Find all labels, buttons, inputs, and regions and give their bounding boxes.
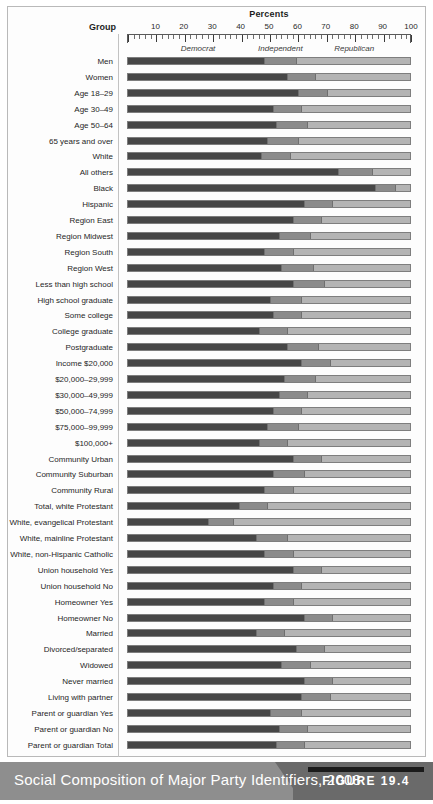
minor-tick-16 (173, 35, 174, 39)
bar-segment-independent (293, 281, 324, 287)
segment-divider-1 (256, 630, 257, 636)
row-label: White, non-Hispanic Catholic (0, 550, 113, 559)
bar-segment-republican (332, 201, 411, 207)
chart-row: Region East (0, 215, 419, 229)
segment-divider-2 (307, 726, 308, 732)
bar-segment-democrat (128, 201, 304, 207)
chart-row: Homeowner No (0, 613, 419, 627)
minor-tick-84 (367, 35, 368, 39)
segment-divider-1 (293, 281, 294, 287)
figure-number-rule (308, 767, 424, 772)
bar-segment-democrat (128, 265, 281, 271)
bar-segment-democrat (128, 440, 259, 446)
bar-segment-republican (298, 138, 411, 144)
minor-tick-22 (190, 35, 191, 39)
chart-row: $50,000–74,999 (0, 406, 419, 420)
row-label: Divorced/separated (0, 645, 113, 654)
bar-segment-democrat (128, 678, 304, 684)
row-label: Less than high school (0, 280, 113, 289)
row-label: Income $20,000 (0, 359, 113, 368)
stacked-bar (127, 741, 411, 749)
chart-row: Community Urban (0, 454, 419, 468)
minor-tick-88 (378, 35, 379, 39)
row-label: Women (0, 73, 113, 82)
stacked-bar (127, 216, 411, 224)
bar-segment-republican (293, 599, 411, 605)
row-label: Men (0, 57, 113, 66)
bar-segment-republican (315, 74, 411, 80)
segment-divider-1 (270, 710, 271, 716)
row-label: Widowed (0, 661, 113, 670)
major-tick-60 (298, 35, 299, 42)
segment-divider-1 (264, 551, 265, 557)
major-tick-10 (156, 35, 157, 42)
chart-row: Women (0, 72, 419, 86)
bar-segment-republican (293, 249, 411, 255)
minor-tick-56 (287, 35, 288, 39)
segment-divider-2 (324, 646, 325, 652)
major-tick-80 (355, 35, 356, 42)
bar-segment-republican (372, 169, 411, 175)
segment-legend: DemocratIndependentRepublican (127, 44, 411, 56)
segment-divider-2 (298, 424, 299, 430)
row-label: Never married (0, 677, 113, 686)
bar-segment-independent (264, 58, 295, 64)
bar-segment-independent (293, 567, 321, 573)
segment-divider-1 (276, 742, 277, 748)
bar-segment-republican (332, 615, 411, 621)
minor-tick-64 (310, 35, 311, 39)
chart-row: White, mainline Protestant (0, 533, 419, 547)
bar-segment-independent (304, 615, 332, 621)
bar-segment-democrat (128, 599, 264, 605)
bar-segment-independent (261, 153, 289, 159)
chart-row: Widowed (0, 660, 419, 674)
bar-segment-independent (338, 169, 372, 175)
minor-tick-82 (361, 35, 362, 39)
stacked-bar (127, 677, 411, 685)
bar-segment-republican (318, 344, 411, 350)
stacked-bar (127, 725, 411, 733)
chart-row: Parent or guardian No (0, 724, 419, 738)
chart-row: Never married (0, 676, 419, 690)
segment-divider-1 (284, 376, 285, 382)
stacked-bar (127, 296, 411, 304)
stacked-bar (127, 614, 411, 622)
bar-segment-independent (267, 424, 298, 430)
row-label: High school graduate (0, 296, 113, 305)
bar-segment-independent (279, 392, 307, 398)
minor-tick-8 (151, 35, 152, 39)
bar-segment-republican (395, 185, 411, 191)
x-axis-tick-labels: 102030405060708090100 (127, 22, 411, 33)
bar-segment-republican (287, 535, 411, 541)
bar-segment-independent (259, 440, 287, 446)
segment-divider-1 (279, 233, 280, 239)
chart-row: Union household Yes (0, 565, 419, 579)
bar-segment-independent (208, 519, 234, 525)
x-tick-label-70: 70 (321, 22, 330, 31)
chart-row: Region Midwest (0, 231, 419, 245)
major-tick-70 (327, 35, 328, 42)
segment-divider-1 (264, 599, 265, 605)
segment-divider-2 (293, 249, 294, 255)
minor-tick-92 (389, 35, 390, 39)
segment-divider-2 (233, 519, 234, 525)
bar-segment-independent (279, 726, 307, 732)
row-label: $75,000–99,999 (0, 423, 113, 432)
segment-divider-1 (298, 90, 299, 96)
minor-tick-72 (332, 35, 333, 39)
segment-divider-1 (301, 694, 302, 700)
stacked-bar (127, 645, 411, 653)
segment-divider-2 (296, 58, 297, 64)
row-label: Some college (0, 311, 113, 320)
stacked-bar (127, 502, 411, 510)
bar-segment-independent (273, 471, 304, 477)
segment-divider-2 (301, 312, 302, 318)
row-label: Community Suburban (0, 470, 113, 479)
segment-divider-2 (287, 328, 288, 334)
stacked-bar (127, 121, 411, 129)
stacked-bar (127, 598, 411, 606)
x-tick-label-100: 100 (404, 22, 417, 31)
segment-divider-2 (330, 360, 331, 366)
segment-divider-1 (375, 185, 376, 191)
bar-segment-democrat (128, 122, 276, 128)
